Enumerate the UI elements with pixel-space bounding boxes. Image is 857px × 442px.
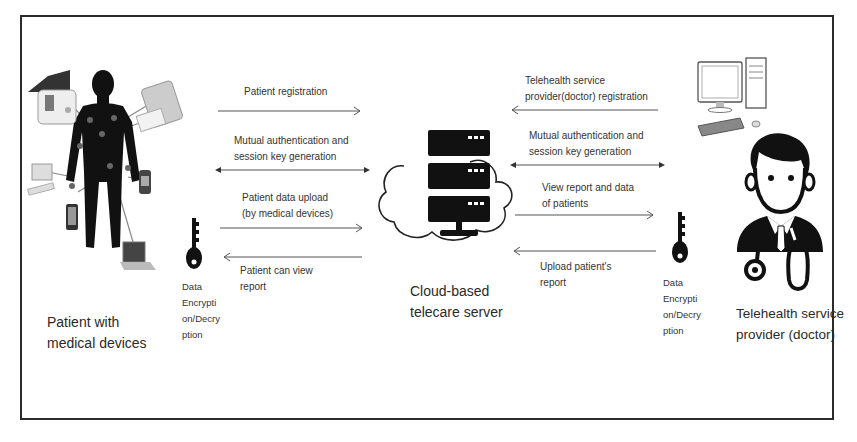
desktop-computer-icon: [696, 58, 776, 140]
doctor-icon: [733, 130, 823, 300]
arrow-left: [222, 252, 364, 262]
cloud-server-icon: [372, 108, 522, 248]
flow-patient-data-upload: Patient data upload (by medical devices): [242, 190, 333, 222]
arrow-left: [510, 105, 660, 115]
patient-label: Patient with medical devices: [47, 312, 147, 354]
flow-mutual-auth-left: Mutual authentication and session key ge…: [234, 133, 349, 165]
key-left-label: Data Encrypti on/Decry ption: [182, 279, 220, 343]
arrow-bidirectional: [510, 160, 665, 170]
arrow-bidirectional: [215, 165, 370, 175]
flow-view-report: View report and data of patients: [542, 180, 634, 212]
flow-mutual-auth-right: Mutual authentication and session key ge…: [529, 128, 644, 160]
arrow-left: [512, 246, 658, 256]
server-label: Cloud-based telecare server: [410, 281, 503, 323]
flow-upload-report: Upload patient's report: [540, 259, 611, 291]
key-right-label: Data Encrypti on/Decry ption: [663, 275, 701, 339]
key-icon: [184, 218, 204, 270]
flow-patient-registration: Patient registration: [244, 84, 327, 100]
arrow-right: [218, 106, 364, 116]
doctor-label: Telehealth service provider (doctor): [736, 303, 844, 345]
flow-patient-view-report: Patient can view report: [240, 263, 313, 295]
flow-doctor-registration: Telehealth service provider(doctor) regi…: [525, 73, 648, 105]
arrow-right: [515, 210, 657, 220]
patient-with-medical-devices-icon: [28, 62, 178, 272]
arrow-right: [220, 223, 366, 233]
key-icon: [670, 212, 690, 264]
